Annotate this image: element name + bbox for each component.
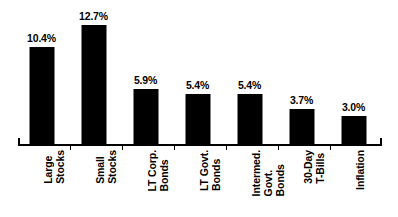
category-label-intermed-govt-bonds: Intermed. Govt. Bonds — [226, 150, 273, 215]
category-label-line: Small — [94, 150, 106, 184]
category-label-line: Bonds — [210, 150, 222, 191]
category-label-rotated: LT Govt. Bonds — [198, 150, 222, 191]
category-label-line: LT Corp. — [146, 150, 158, 192]
bar — [289, 109, 314, 144]
x-axis-left-cap — [18, 138, 20, 146]
category-label-line: Intermed. — [250, 150, 262, 196]
category-label-inflation: Inflation — [330, 150, 377, 215]
category-label-line: Stocks — [54, 150, 66, 184]
bar-value-label: 10.4% — [27, 32, 56, 44]
category-label-line: Stocks — [106, 150, 118, 184]
category-label-rotated: LT Corp. Bonds — [146, 150, 170, 192]
bar-chart: 10.4% 12.7% 5.9% 5.4% 5.4% 3.7% 3.0% — [0, 0, 398, 217]
category-label-rotated: 30-Day T-Bills — [302, 150, 326, 184]
bar — [237, 94, 262, 144]
category-label-large-stocks: Large Stocks — [18, 150, 65, 215]
x-axis-right-cap — [380, 138, 382, 146]
bar-value-label: 5.9% — [134, 74, 157, 86]
bar-value-label: 12.7% — [79, 10, 108, 22]
category-label-line: T-Bills — [314, 150, 326, 184]
category-label-line: Bonds — [158, 150, 170, 192]
bar-slot: 5.4% — [174, 0, 221, 144]
category-label-lt-govt-bonds: LT Govt. Bonds — [174, 150, 221, 215]
bar — [81, 25, 106, 144]
bar-slot: 5.9% — [122, 0, 169, 144]
bar-slot: 5.4% — [226, 0, 273, 144]
bar-slot: 12.7% — [70, 0, 117, 144]
bar-slot: 10.4% — [18, 0, 65, 144]
x-axis-line — [18, 144, 382, 146]
category-label-line: Large — [42, 150, 54, 184]
bar-slot: 3.7% — [278, 0, 325, 144]
bar — [341, 116, 366, 144]
category-label-rotated: Small Stocks — [94, 150, 118, 184]
category-label-rotated: Large Stocks — [42, 150, 66, 184]
category-label-line: Inflation — [354, 150, 366, 190]
bar-slot: 3.0% — [330, 0, 377, 144]
bar-value-label: 5.4% — [186, 79, 209, 91]
bar-value-label: 5.4% — [238, 79, 261, 91]
category-label-small-stocks: Small Stocks — [70, 150, 117, 215]
category-label-30-day-t-bills: 30-Day T-Bills — [278, 150, 325, 215]
bar — [29, 47, 54, 144]
category-label-line: Govt. — [262, 150, 274, 196]
plot-area: 10.4% 12.7% 5.9% 5.4% 5.4% 3.7% 3.0% — [0, 0, 398, 144]
bar — [133, 89, 158, 144]
category-label-line: LT Govt. — [198, 150, 210, 191]
bar-value-label: 3.7% — [290, 94, 313, 106]
category-label-line: 30-Day — [302, 150, 314, 184]
category-label-rotated: Inflation — [354, 150, 366, 190]
bar — [185, 94, 210, 144]
bar-value-label: 3.0% — [342, 101, 365, 113]
category-label-lt-corp-bonds: LT Corp. Bonds — [122, 150, 169, 215]
